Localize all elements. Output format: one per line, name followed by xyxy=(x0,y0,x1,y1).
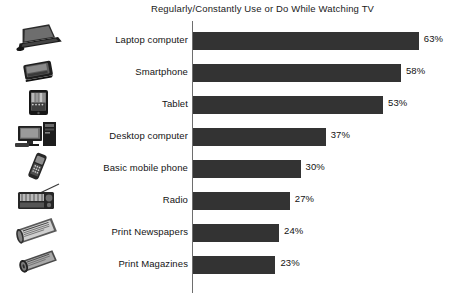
bar-value-print-newspapers: 24% xyxy=(284,225,303,236)
bar-value-basic-mobile-phone: 30% xyxy=(306,161,325,172)
bar-value-tablet: 53% xyxy=(388,97,407,108)
bar-row-basic-mobile-phone: 30% xyxy=(193,158,461,180)
bar-value-radio: 27% xyxy=(295,193,314,204)
chart-title: Regularly/Constantly Use or Do While Wat… xyxy=(0,3,461,14)
bar-value-desktop-computer: 37% xyxy=(331,129,350,140)
category-label-basic-mobile-phone: Basic mobile phone xyxy=(8,162,188,173)
bar-tablet xyxy=(193,96,383,114)
bar-desktop-computer xyxy=(193,128,326,146)
category-label-radio: Radio xyxy=(8,194,188,205)
bar-row-radio: 27% xyxy=(193,190,461,212)
bar-value-smartphone: 58% xyxy=(406,65,425,76)
category-label-laptop-computer: Laptop computer xyxy=(8,34,188,45)
bar-row-print-newspapers: 24% xyxy=(193,222,461,244)
bar-value-print-magazines: 23% xyxy=(280,257,299,268)
bar-smartphone xyxy=(193,64,401,82)
bar-value-laptop-computer: 63% xyxy=(424,33,443,44)
category-label-tablet: Tablet xyxy=(8,98,188,109)
category-label-desktop-computer: Desktop computer xyxy=(8,130,188,141)
bar-row-smartphone: 58% xyxy=(193,62,461,84)
category-icon-rail xyxy=(0,22,74,294)
bar-row-tablet: 53% xyxy=(193,94,461,116)
bar-radio xyxy=(193,192,290,210)
category-label-print-magazines: Print Magazines xyxy=(8,258,188,269)
bar-row-print-magazines: 23% xyxy=(193,254,461,276)
bar-laptop-computer xyxy=(193,32,419,50)
bar-basic-mobile-phone xyxy=(193,160,301,178)
chart-title-text: Regularly/Constantly Use or Do While Wat… xyxy=(151,3,374,14)
bar-chart: Regularly/Constantly Use or Do While Wat… xyxy=(0,0,461,299)
bar-print-magazines xyxy=(193,256,275,274)
category-label-print-newspapers: Print Newspapers xyxy=(8,226,188,237)
bar-row-desktop-computer: 37% xyxy=(193,126,461,148)
bars-layer: 63% 58% 53% 37% 30% 27% 24% 23% xyxy=(193,22,461,294)
bar-row-laptop-computer: 63% xyxy=(193,30,461,52)
category-label-smartphone: Smartphone xyxy=(8,66,188,77)
bar-print-newspapers xyxy=(193,224,279,242)
